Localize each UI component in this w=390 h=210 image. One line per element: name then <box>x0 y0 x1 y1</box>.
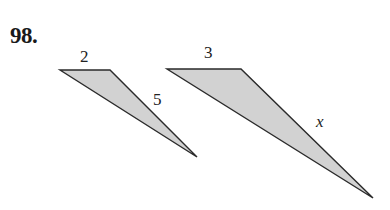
large-triangle <box>167 69 373 198</box>
large-triangle-top-label: 3 <box>204 43 213 63</box>
small-triangle-side-label: 5 <box>153 90 162 110</box>
large-triangle-side-label: x <box>316 112 324 132</box>
small-triangle <box>60 70 197 157</box>
similar-triangles-figure <box>0 0 390 210</box>
small-triangle-top-label: 2 <box>80 47 89 67</box>
